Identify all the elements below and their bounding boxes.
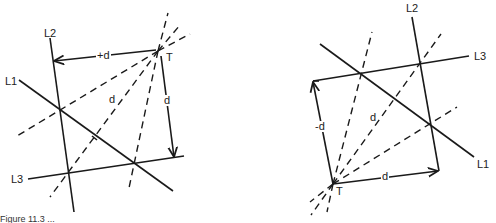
left-dashed-ray-2	[50, 51, 158, 197]
right-figure	[310, 17, 474, 215]
right-label-minus-d: -d	[314, 121, 326, 132]
left-label-d-dashed: d	[109, 94, 115, 105]
left-label-plus-d: +d	[96, 50, 111, 61]
right-dashed-ray-3	[333, 107, 457, 184]
right-label-L1: L1	[477, 159, 489, 170]
right-line-L3	[313, 56, 469, 81]
left-dashed-ext-1	[158, 13, 168, 51]
left-label-L1: L1	[5, 76, 17, 87]
right-line-L2	[412, 17, 439, 171]
figure-caption: Figure 11.3 ...	[0, 214, 55, 223]
right-label-T: T	[336, 186, 343, 197]
right-label-d-dashed: d	[370, 112, 376, 123]
left-line-L3	[28, 156, 184, 179]
left-arrow-d-vertical	[161, 56, 174, 157]
right-line-L1	[320, 44, 474, 157]
left-label-L2: L2	[44, 28, 56, 39]
left-dashed-ext-3	[158, 34, 190, 51]
right-dashed-ray-1	[333, 32, 372, 184]
right-arrow-minus-d	[313, 82, 333, 184]
right-label-L2: L2	[406, 3, 418, 14]
right-label-d-horizontal: d	[381, 171, 389, 182]
left-label-d-vertical: d	[163, 95, 171, 106]
left-line-L1	[19, 80, 173, 191]
right-dashed-ray-2	[333, 34, 441, 184]
left-label-T: T	[166, 52, 173, 63]
left-label-L3: L3	[11, 174, 23, 185]
diagram-canvas	[0, 0, 496, 223]
left-figure	[17, 13, 190, 212]
right-label-L3: L3	[474, 51, 486, 62]
left-line-L2	[50, 38, 74, 212]
